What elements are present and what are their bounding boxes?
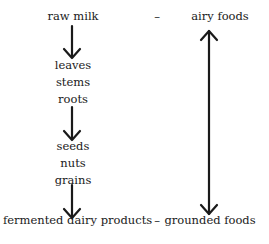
label-roots: roots: [58, 92, 88, 106]
dash-separator: –: [154, 213, 160, 227]
label-airy-foods: airy foods: [191, 9, 249, 23]
dash-separator: –: [154, 9, 160, 23]
label-grains: grains: [55, 173, 92, 187]
arrows-layer: [0, 0, 269, 244]
label-leaves: leaves: [55, 58, 92, 72]
label-grounded-foods: grounded foods: [164, 213, 255, 227]
label-stems: stems: [56, 75, 90, 89]
label-nuts: nuts: [60, 156, 85, 170]
label-seeds: seeds: [57, 139, 90, 153]
label-raw-milk: raw milk: [47, 9, 98, 23]
down-arrow-icon: [64, 107, 80, 140]
label-fermented-dairy-products: fermented dairy products: [3, 213, 152, 227]
double-arrow-icon: [201, 31, 217, 214]
down-arrow-icon: [64, 26, 80, 58]
